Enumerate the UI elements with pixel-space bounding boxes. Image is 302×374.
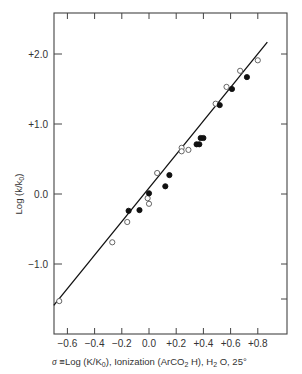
open-data-point (155, 170, 160, 175)
x-tick-label: −0.4 (85, 338, 105, 349)
filled-data-point (126, 208, 131, 213)
open-data-point (186, 147, 191, 152)
x-axis-title: σ ≡Log (K/K0), Ionization (ArCO2 H), H2 … (52, 356, 247, 368)
open-data-point (255, 58, 260, 63)
x-tick-label: +0.2 (166, 338, 186, 349)
filled-data-point (146, 191, 151, 196)
filled-data-point (137, 208, 142, 213)
filled-data-point (217, 103, 222, 108)
filled-data-point (163, 184, 168, 189)
y-tick-label: −1.0 (28, 259, 48, 270)
open-data-point (145, 196, 150, 201)
x-tick-label: +0.4 (194, 338, 214, 349)
filled-data-point (244, 75, 249, 80)
y-tick-label: +1.0 (28, 119, 48, 130)
y-axis-title: Log (k/k0) (13, 174, 25, 215)
open-data-point (110, 240, 115, 245)
axis-ticks: −0.6−0.4−0.20.0+0.2+0.4+0.6+0.8+2.0+1.00… (28, 13, 287, 349)
x-tick-label: −0.2 (112, 338, 132, 349)
hammett-plot: −0.6−0.4−0.20.0+0.2+0.4+0.6+0.8+2.0+1.00… (0, 0, 302, 374)
open-data-point (238, 68, 243, 73)
open-data-point (224, 84, 229, 89)
y-tick-label: +2.0 (28, 49, 48, 60)
x-tick-label: +0.6 (221, 338, 241, 349)
x-tick-label: 0.0 (142, 338, 156, 349)
filled-data-point (201, 135, 206, 140)
open-data-point (125, 219, 130, 224)
open-data-point (179, 149, 184, 154)
x-tick-label: −0.6 (58, 338, 78, 349)
x-tick-label: +0.8 (248, 338, 268, 349)
filled-data-point (167, 173, 172, 178)
fit-line (54, 42, 268, 305)
open-data-point (146, 201, 151, 206)
data-points (57, 58, 261, 304)
filled-data-point (229, 86, 234, 91)
y-tick-label: 0.0 (34, 189, 48, 200)
open-data-point (57, 299, 62, 304)
regression-line (54, 42, 268, 305)
filled-data-point (197, 142, 202, 147)
